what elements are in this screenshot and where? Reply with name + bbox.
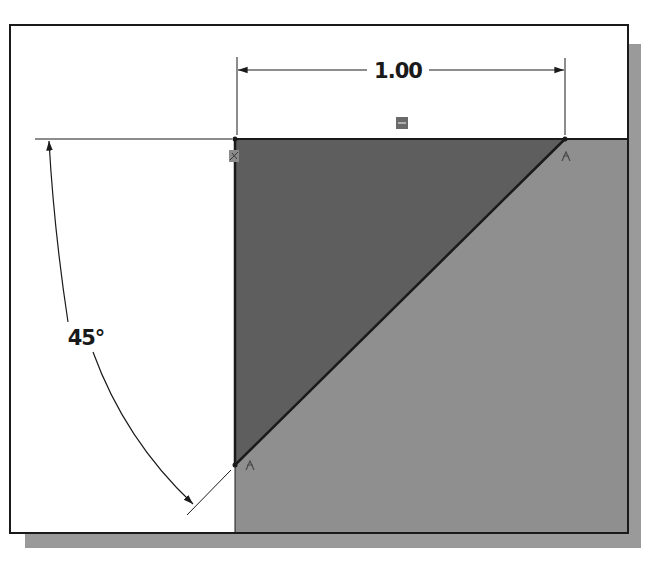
dimension-value-1-00[interactable]: 1.00: [374, 59, 422, 83]
vertex-bottom-left[interactable]: [233, 463, 238, 468]
sketch-canvas: 1.00 45°: [0, 0, 660, 565]
angle-value-45[interactable]: 45°: [68, 326, 105, 350]
vertex-top-right[interactable]: [563, 137, 568, 142]
horizontal-constraint-icon[interactable]: [396, 117, 408, 129]
fixed-constraint-icon[interactable]: [229, 150, 239, 162]
vertex-top-left[interactable]: [233, 137, 238, 142]
